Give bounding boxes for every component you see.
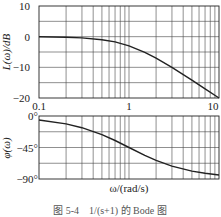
phase-ytick: −90° [16, 173, 38, 185]
phase-ytick: 0° [28, 110, 38, 122]
mag-ytick: 10 [19, 0, 31, 12]
magnitude-plot [39, 6, 219, 98]
figure-caption: 图 5-4 1/(s+1) 的 Bode 图 [53, 204, 166, 217]
bode-plot: 100−10−20L(ω)/dB0.11100°−45°−90°φ(ω)ω/(r… [0, 0, 221, 217]
mag-ytick: −20 [13, 92, 31, 104]
mag-ytick: −10 [13, 61, 31, 73]
phase-ytick: −45° [16, 142, 38, 154]
x-axis-label: ω/(rad/s) [109, 182, 148, 195]
phase-plot [39, 116, 219, 179]
phase-ylabel: φ(ω) [0, 137, 13, 159]
xtick: 10 [208, 100, 220, 112]
xtick: 1 [126, 100, 132, 112]
mag-ytick: 0 [25, 31, 31, 43]
mag-ylabel: L(ω)/dB [0, 33, 13, 71]
